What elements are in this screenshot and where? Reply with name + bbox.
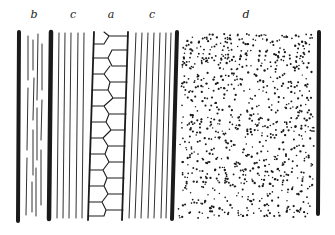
boundary-bar-right: [318, 32, 319, 214]
boundary-bar-b-c: [49, 32, 51, 219]
region-d-stipple: [178, 33, 315, 219]
boundary-bar-left: [18, 32, 19, 221]
boundary-bar-c-d: [172, 32, 177, 219]
region-b-streaks: [26, 34, 42, 216]
region-c-right-fibres: [129, 33, 171, 218]
tissue-diagram: (function(){ var g = document.getElement…: [0, 0, 335, 235]
region-c-left-fibres: [57, 33, 84, 218]
region-a-cells: [88, 32, 128, 220]
